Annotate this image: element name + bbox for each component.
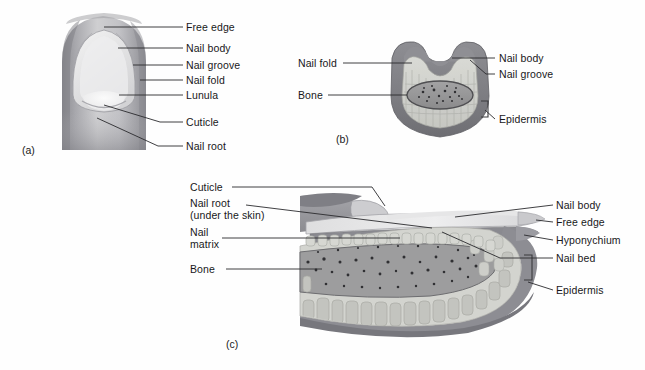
label-free-edge-c: Free edge <box>556 216 605 228</box>
panel-tag-b: (b) <box>336 133 349 145</box>
label-free-edge-a: Free edge <box>186 21 235 33</box>
label-nail-root-sub-c: (under the skin) <box>190 209 265 221</box>
label-nail-body-c: Nail body <box>556 199 601 211</box>
label-lunula-a: Lunula <box>186 89 218 101</box>
label-nail-bed-c: Nail bed <box>556 252 595 264</box>
label-nail-groove-a: Nail groove <box>186 59 240 71</box>
panel-tag-a: (a) <box>22 144 35 156</box>
label-cuticle-a: Cuticle <box>186 116 219 128</box>
label-nail-matrix-line2-c: matrix <box>190 238 219 250</box>
pulp-shade-a <box>62 112 148 152</box>
hyponychium-c <box>516 226 540 241</box>
label-nail-body-b: Nail body <box>499 52 544 64</box>
bone-b <box>407 81 473 109</box>
label-bone-c: Bone <box>190 263 215 275</box>
free-edge-c <box>518 212 545 225</box>
nail-anatomy-figure: Free edge Nail body Nail groove Nail fol… <box>0 0 645 370</box>
panel-b-artwork <box>328 42 495 137</box>
label-epidermis-c: Epidermis <box>556 284 604 296</box>
label-cuticle-c: Cuticle <box>190 181 223 193</box>
label-hyponychium-c: Hyponychium <box>556 234 621 246</box>
panel-a-artwork <box>62 13 183 152</box>
label-nail-matrix-line1-c: Nail <box>190 226 209 238</box>
label-bone-b: Bone <box>298 89 323 101</box>
label-nail-fold-a: Nail fold <box>186 74 225 86</box>
label-epidermis-b: Epidermis <box>499 113 547 125</box>
panel-c-artwork <box>222 187 553 337</box>
label-nail-body-a: Nail body <box>186 42 231 54</box>
label-nail-root-a: Nail root <box>186 140 226 152</box>
label-nail-root-c: Nail root <box>190 197 230 209</box>
label-nail-fold-b: Nail fold <box>298 57 337 69</box>
panel-tag-c: (c) <box>226 338 238 350</box>
label-nail-groove-b: Nail groove <box>499 68 553 80</box>
figure-artwork <box>0 0 645 370</box>
